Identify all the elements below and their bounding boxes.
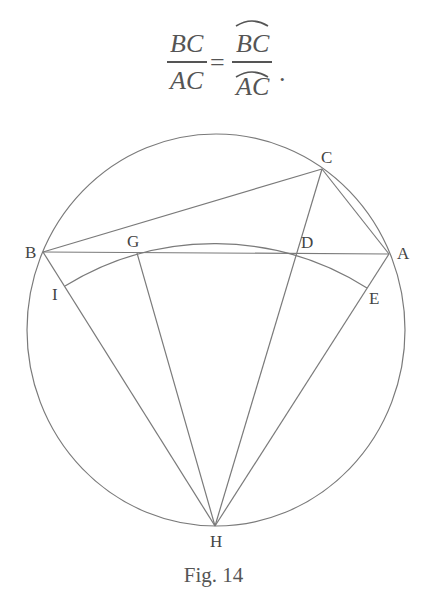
label-B: B	[25, 243, 36, 262]
segment-CH	[215, 169, 322, 526]
label-H: H	[210, 532, 222, 551]
segment-CA	[322, 169, 389, 254]
label-C: C	[321, 148, 332, 167]
segment-BC	[43, 169, 322, 252]
segment-GH	[137, 253, 215, 526]
label-D: D	[301, 233, 313, 252]
label-I: I	[52, 285, 58, 304]
arc-IE	[65, 244, 367, 288]
circumcircle	[27, 134, 405, 526]
label-E: E	[369, 289, 379, 308]
segment-BH	[43, 252, 215, 526]
segment-AH	[215, 254, 389, 526]
figure-caption: Fig. 14	[0, 563, 427, 588]
label-A: A	[397, 244, 410, 263]
geometry-figure: A B C D E G H I	[0, 0, 427, 614]
segment-BA	[43, 252, 389, 254]
label-G: G	[127, 232, 139, 251]
